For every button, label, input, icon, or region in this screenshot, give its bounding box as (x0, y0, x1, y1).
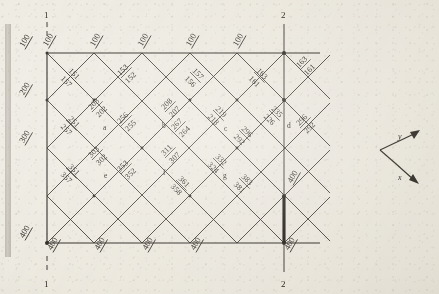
top-label-1: 100 (87, 32, 102, 48)
section-marker-2-top: 2 (281, 10, 286, 20)
left-label-0: 100 (17, 32, 32, 48)
top-edge-labels: 100 100 100 100 100 (40, 31, 246, 49)
axis-x-label: x (397, 173, 402, 182)
top-label-4: 100 (230, 32, 245, 48)
left-label-2: 300 (17, 128, 32, 144)
bottom-label-3: 400 (188, 235, 203, 251)
section-marker-1-bottom: 1 (44, 279, 49, 289)
section-marker-2-bottom: 2 (281, 279, 286, 289)
top-label-2: 100 (135, 32, 150, 48)
left-label-3: 400 (17, 223, 32, 239)
node-label-f: f (163, 168, 166, 177)
bottom-label-1: 400 (92, 235, 107, 251)
grid-diagram-svg: 1 2 1 2 100 100 100 100 100 (0, 0, 439, 294)
top-label-0: 100 (40, 32, 55, 48)
frame-outline (47, 53, 320, 243)
node-label-c: c (224, 124, 228, 133)
axis-y-arrowhead (410, 130, 420, 139)
figure-page: 1 2 1 2 100 100 100 100 100 (0, 0, 439, 294)
axis-y-label: y (397, 132, 402, 141)
section-marker-1-top: 1 (44, 10, 49, 20)
left-label-1: 200 (17, 80, 32, 96)
member-labels-upleft-group: 151 157 153 152 157 156 163 161 (58, 53, 318, 198)
axis-x-arrowhead (409, 174, 419, 184)
node-label-e: e (104, 171, 108, 180)
node-label-d: d (287, 121, 291, 130)
top-label-3: 100 (183, 32, 198, 48)
node-label-b: b (162, 121, 166, 130)
bottom-label-2: 400 (140, 235, 155, 251)
axis-y-arm (380, 150, 395, 163)
axis-indicator: y x (380, 130, 420, 184)
left-edge-labels: 100 200 300 400 (16, 31, 32, 240)
node-label-a: a (103, 123, 107, 132)
node-label-g: g (223, 171, 227, 180)
